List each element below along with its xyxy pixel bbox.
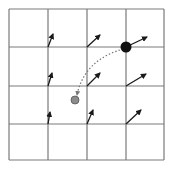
- vector-arrow-icon-r1c1: [48, 34, 53, 47]
- dotted-trajectory-curve: [77, 50, 120, 95]
- end-point-gray-dot: [71, 96, 79, 104]
- vector-arrow-icon-r3c2: [87, 110, 93, 124]
- points: [71, 42, 132, 105]
- grid: [9, 9, 164, 160]
- vector-arrow-icon-r2c3: [126, 74, 146, 86]
- vector-arrow-icon-r1c2: [87, 35, 100, 47]
- start-point-black-dot: [121, 42, 132, 53]
- vector-field-diagram: [0, 0, 172, 169]
- trajectory-path: [77, 50, 120, 95]
- vector-arrow-icon-r2c2: [87, 73, 100, 86]
- vector-arrow-icon-r3c3: [126, 110, 141, 124]
